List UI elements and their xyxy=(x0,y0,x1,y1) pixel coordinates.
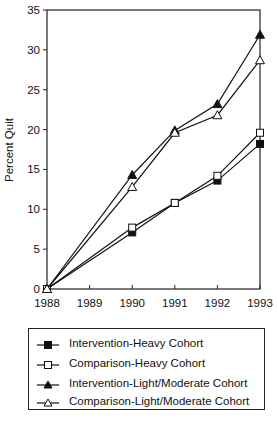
x-tick-label: 1989 xyxy=(77,297,103,309)
filled-square-marker-icon xyxy=(257,140,264,147)
chart-legend: Intervention-Heavy Cohort Comparison-Hea… xyxy=(28,328,265,410)
filled-triangle-marker-icon xyxy=(213,100,222,108)
legend-item-intervention-heavy: Intervention-Heavy Cohort xyxy=(29,335,264,355)
y-tick-label: 30 xyxy=(27,44,40,56)
open-triangle-marker-icon xyxy=(37,396,59,410)
filled-square-marker-icon xyxy=(37,338,59,352)
chart-series xyxy=(43,30,265,292)
filled-triangle-marker-icon xyxy=(37,378,59,392)
x-tick-label: 1992 xyxy=(205,297,231,309)
y-axis-label: Percent Quit xyxy=(3,117,15,182)
y-tick-label: 25 xyxy=(27,84,40,96)
filled-triangle-marker-icon xyxy=(256,30,265,38)
series-line xyxy=(47,60,260,289)
y-tick-label: 5 xyxy=(34,243,40,255)
y-tick-label: 10 xyxy=(27,203,40,215)
open-square-marker-icon xyxy=(257,129,264,136)
y-tick-label: 20 xyxy=(27,124,40,136)
line-chart: 05101520253035198819891990199119921993 P… xyxy=(0,0,277,328)
y-tick-label: 15 xyxy=(27,163,40,175)
x-tick-label: 1988 xyxy=(34,297,60,309)
legend-item-intervention-light: Intervention-Light/Moderate Cohort xyxy=(29,375,264,395)
y-tick-label: 35 xyxy=(27,4,40,16)
legend-item-comparison-heavy: Comparison-Heavy Cohort xyxy=(29,355,264,375)
series-line xyxy=(47,133,260,289)
open-square-marker-icon xyxy=(171,199,178,206)
x-tick-label: 1991 xyxy=(162,297,188,309)
legend-item-comparison-light: Comparison-Light/Moderate Cohort xyxy=(29,393,264,413)
open-triangle-marker-icon xyxy=(256,56,265,64)
open-square-marker-icon xyxy=(37,358,59,372)
open-square-marker-icon xyxy=(129,224,136,231)
x-tick-label: 1990 xyxy=(119,297,145,309)
y-tick-label: 0 xyxy=(34,283,40,295)
open-square-marker-icon xyxy=(214,172,221,179)
x-tick-label: 1993 xyxy=(247,297,273,309)
